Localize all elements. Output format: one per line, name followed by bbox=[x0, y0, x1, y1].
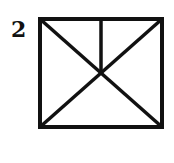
square-diagram bbox=[0, 0, 174, 163]
